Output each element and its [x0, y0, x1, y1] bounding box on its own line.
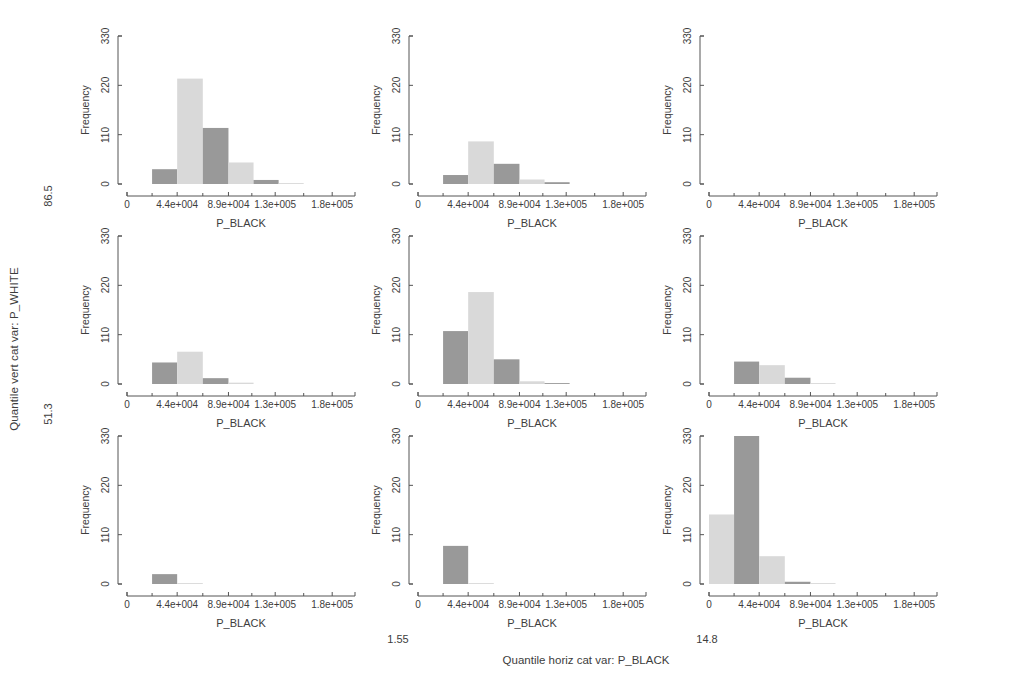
y-tick-label: 110: [100, 527, 111, 543]
histogram-bar: [443, 546, 468, 584]
histogram-bar: [468, 292, 494, 384]
panel-r2c2: 0110220330Frequency04.4e+0048.9e+0041.3e…: [366, 218, 656, 418]
x-tick-label: 1.8e+005: [602, 399, 644, 410]
y-axis-line: [700, 236, 704, 384]
x-tick-label: 1.8e+005: [893, 599, 935, 610]
x-tick-label: 1.3e+005: [836, 399, 878, 410]
panel-x-axis-title: P_BLACK: [216, 617, 266, 629]
panel-x-axis-title: P_BLACK: [798, 617, 848, 629]
histogram-bar: [734, 436, 759, 584]
x-tick-label: 1.3e+005: [545, 399, 587, 410]
x-tick-label: 4.4e+004: [156, 399, 198, 410]
x-tick-label: 1.3e+005: [545, 199, 587, 210]
x-tick-label: 1.3e+005: [836, 199, 878, 210]
histogram-bar: [443, 331, 468, 384]
outer-vertical-tick-top: 86.5: [42, 185, 54, 206]
x-tick-label: 4.4e+004: [156, 199, 198, 210]
y-tick-label: 110: [682, 127, 693, 143]
x-tick-label: 0: [415, 599, 421, 610]
y-axis-line: [409, 36, 413, 184]
x-tick-label: 4.4e+004: [738, 199, 780, 210]
histogram-bar: [152, 169, 177, 184]
panel-r1c2: 0110220330Frequency04.4e+0048.9e+0041.3e…: [366, 18, 656, 218]
x-tick-label: 1.3e+005: [254, 399, 296, 410]
panel-plot-area: [657, 418, 947, 618]
x-tick-label: 1.8e+005: [602, 599, 644, 610]
panel-r1c3: 0110220330Frequency04.4e+0048.9e+0041.3e…: [657, 18, 947, 218]
y-tick-label: 110: [100, 127, 111, 143]
x-tick-label: 8.9e+004: [789, 399, 831, 410]
y-tick-label: 220: [100, 77, 111, 94]
x-tick-label: 8.9e+004: [207, 599, 249, 610]
x-tick-label: 4.4e+004: [447, 599, 489, 610]
x-tick-label: 4.4e+004: [447, 399, 489, 410]
x-tick-label: 0: [706, 599, 712, 610]
x-tick-label: 0: [706, 199, 712, 210]
outer-vertical-axis-label: Quantile vert cat var: P_WHITE: [8, 267, 20, 430]
histogram-bar: [177, 79, 203, 184]
panel-plot-area: [657, 218, 947, 418]
panel-plot-area: [75, 218, 365, 418]
histogram-bar: [545, 383, 570, 384]
panel-r2c1: 0110220330Frequency04.4e+0048.9e+0041.3e…: [75, 218, 365, 418]
histogram-bar: [254, 180, 279, 184]
histogram-bar: [785, 582, 811, 584]
y-tick-label: 110: [391, 327, 402, 343]
panel-plot-area: [657, 18, 947, 218]
histogram-bars: [734, 362, 835, 384]
x-tick-label: 8.9e+004: [498, 599, 540, 610]
y-tick-label: 0: [100, 381, 111, 387]
panel-y-axis-title: Frequency: [370, 485, 382, 535]
x-tick-label: 4.4e+004: [738, 399, 780, 410]
y-tick-label: 110: [682, 327, 693, 343]
y-tick-label: 220: [391, 477, 402, 494]
histogram-bar: [228, 162, 253, 184]
outer-horizontal-tick-left: 1.55: [387, 633, 408, 645]
panel-plot-area: [366, 218, 656, 418]
y-tick-label: 220: [682, 477, 693, 494]
y-tick-label: 0: [682, 181, 693, 187]
outer-horizontal-tick-right: 14.8: [696, 633, 717, 645]
panel-y-axis-title: Frequency: [370, 85, 382, 135]
y-axis-line: [700, 436, 704, 584]
x-tick-label: 1.3e+005: [254, 599, 296, 610]
histogram-bar: [759, 556, 785, 584]
x-tick-label: 1.8e+005: [311, 399, 353, 410]
panel-r2c3: 0110220330Frequency04.4e+0048.9e+0041.3e…: [657, 218, 947, 418]
x-tick-label: 0: [415, 399, 421, 410]
histogram-bar: [203, 128, 229, 184]
y-tick-label: 330: [682, 228, 693, 245]
y-tick-label: 220: [391, 77, 402, 94]
histogram-bars: [152, 574, 203, 584]
histogram-bar: [810, 383, 835, 384]
y-axis-line: [118, 436, 122, 584]
histogram-bar: [152, 574, 177, 584]
x-tick-label: 0: [124, 399, 130, 410]
y-axis-line: [409, 436, 413, 584]
x-tick-label: 4.4e+004: [738, 599, 780, 610]
x-axis-line: [709, 592, 937, 596]
panel-plot-area: [366, 18, 656, 218]
y-tick-label: 0: [100, 581, 111, 587]
panel-r3c1: 0110220330Frequency04.4e+0048.9e+0041.3e…: [75, 418, 365, 618]
histogram-bar: [468, 583, 494, 584]
y-tick-label: 330: [391, 28, 402, 45]
histogram-bar: [203, 378, 229, 384]
x-axis-line: [418, 592, 646, 596]
panel-plot-area: [75, 418, 365, 618]
histogram-bar: [709, 514, 734, 584]
y-axis-line: [700, 36, 704, 184]
histogram-bar: [228, 383, 253, 384]
panel-plot-area: [75, 18, 365, 218]
x-tick-label: 8.9e+004: [207, 399, 249, 410]
panel-r3c2: 0110220330Frequency04.4e+0048.9e+0041.3e…: [366, 418, 656, 618]
y-tick-label: 110: [682, 527, 693, 543]
x-axis-line: [127, 392, 355, 396]
y-tick-label: 110: [391, 527, 402, 543]
x-tick-label: 1.8e+005: [893, 199, 935, 210]
x-axis-line: [127, 592, 355, 596]
panel-x-axis-title: P_BLACK: [507, 617, 557, 629]
y-tick-label: 330: [391, 228, 402, 245]
histogram-bar: [734, 362, 759, 384]
x-tick-label: 0: [706, 399, 712, 410]
